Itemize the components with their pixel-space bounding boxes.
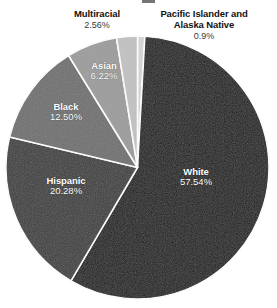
slice-label-multiracial-percent: 2.56% [55,20,139,30]
slice-label-pacific-islander-alaska-native: Pacific Islander and Alaska Native 0.9% [134,9,274,41]
slice-label-multiracial-name: Multiracial [55,9,139,20]
slice-label-pacific-islander-alaska-native-name: Pacific Islander and Alaska Native [134,9,274,30]
slice-label-pacific-islander-alaska-native-percent: 0.9% [134,31,274,41]
pie-graphic [0,0,277,308]
slice-label-multiracial: Multiracial 2.56% [55,9,139,30]
pie-chart: Multiracial 2.56% Pacific Islander and A… [0,0,277,308]
